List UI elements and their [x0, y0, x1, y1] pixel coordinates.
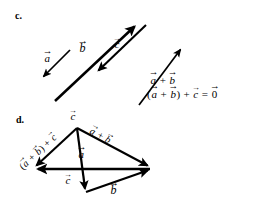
vector-a-label-part-c: →a: [44, 53, 51, 64]
figure-root: c. →a →b →c →a + →b (→a + →b) + →c = →0 …: [0, 0, 261, 211]
vector-c-label-top-part-d: →c: [70, 111, 76, 122]
part-d-arrows-layer: [0, 0, 261, 211]
plus-sign: +: [180, 88, 192, 100]
equation-line-2-part-c: (→a + →b) + →c = →0: [147, 88, 218, 102]
term-c-glyph: →c: [193, 88, 199, 102]
vector-c-label-part-c: →c: [114, 39, 120, 50]
vector-c-label-bottom-part-d: →c: [65, 175, 71, 186]
term-zero-glyph: →0: [211, 88, 218, 102]
term-b-glyph: →b: [170, 88, 177, 102]
plus-sign: +: [158, 88, 170, 100]
plus-sign: +: [157, 74, 169, 86]
part-d-label: d.: [16, 115, 24, 125]
vector-b-label-part-d: →b: [110, 184, 117, 196]
term-a-glyph: →a: [150, 74, 157, 88]
vector-a-glyph: →a: [78, 149, 85, 160]
term-a-glyph: →a: [151, 88, 158, 102]
vector-b-glyph: →b: [79, 42, 86, 54]
equals-sign: =: [199, 88, 211, 100]
equation-line-1-part-c: →a + →b: [150, 74, 176, 88]
part-c-label: c.: [15, 11, 22, 21]
term-b-glyph: →b: [169, 74, 176, 88]
vector-c-glyph: →c: [114, 39, 120, 50]
vector-b-label-part-c: →b: [79, 42, 86, 54]
vector-a-glyph: →a: [44, 53, 51, 64]
vector-a-label-part-d: →a: [78, 149, 85, 160]
vector-b-glyph: →b: [110, 184, 117, 196]
vector-c-glyph: →c: [65, 175, 71, 186]
vector-c-glyph: →c: [70, 111, 76, 122]
